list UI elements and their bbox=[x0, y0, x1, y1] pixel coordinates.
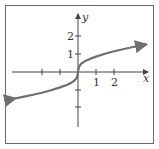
y-tick-label-1: 1 bbox=[67, 48, 74, 61]
y-axis-label: y bbox=[81, 11, 89, 24]
x-tick-label-1: 1 bbox=[93, 76, 100, 89]
x-tick-label-2: 2 bbox=[111, 76, 118, 89]
y-tick-label-2: 2 bbox=[67, 30, 74, 43]
x-axis-label: x bbox=[143, 72, 150, 85]
cube-root-graph: 1 2 1 2 x y bbox=[0, 0, 159, 149]
